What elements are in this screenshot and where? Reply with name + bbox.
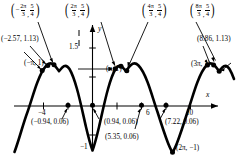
comma: , — [203, 12, 205, 19]
annotation-label-8.86: (8.86, 1.13) — [197, 36, 231, 43]
fraction-x-denominator: 3 — [21, 10, 25, 17]
arrow-neg2pi3 — [38, 22, 52, 61]
x-axis-label: x — [206, 91, 209, 99]
fraction-y: 5 4 — [30, 3, 34, 17]
point-2pi-min — [170, 150, 175, 155]
fraction-y: 5 4 — [205, 3, 209, 17]
annotation-label-neg-2.57: (−2.57, 1.13) — [1, 36, 39, 43]
fraction-y-denominator: 4 — [30, 10, 34, 17]
point-7.22 — [164, 103, 169, 108]
annotation-label-neg-0.94: (−0.94, 0.06) — [31, 119, 69, 126]
fraction-y-denominator: 4 — [205, 10, 209, 17]
paren-open: ( — [142, 3, 146, 17]
comma: , — [27, 12, 29, 19]
fraction-y: 5 4 — [157, 3, 161, 17]
point-8pi3 — [211, 62, 216, 67]
fraction-x: 2π 3 — [20, 3, 27, 17]
annotation-label-8pi-over-3: ( 8π 3 , 5 4 ) — [189, 3, 216, 17]
fraction-x: 4π 3 — [147, 3, 154, 17]
x-tick-label-neg4: −4 — [38, 110, 46, 117]
y-tick-label-neg1: −1 — [80, 144, 88, 151]
point-4pi3 — [124, 68, 129, 73]
paren-close: ) — [163, 3, 167, 17]
annotation-label-7.22: (7.22, 0.06) — [165, 119, 199, 126]
axes-group — [14, 25, 218, 148]
point-3pi — [217, 69, 222, 74]
fraction-x: 2π 3 — [70, 3, 77, 17]
fraction-x-denominator: 3 — [72, 10, 76, 17]
annotation-label-5.35: (5.35, 0.06) — [105, 134, 139, 141]
comma: , — [78, 12, 80, 19]
paren-close: ) — [86, 3, 90, 17]
point-neg-0.94 — [66, 103, 71, 108]
point-neg-2pi3 — [52, 62, 57, 67]
comma: , — [155, 12, 157, 19]
annotation-label-2pi-over-3: ( 2π 3 , 5 4 ) — [64, 3, 91, 17]
fraction-x-denominator: 3 — [149, 10, 153, 17]
arrow-2pi3 — [101, 22, 114, 64]
annotation-label-3pi: (3π, 1) — [191, 61, 210, 68]
fraction-y-denominator: 4 — [157, 10, 161, 17]
fraction-x-denominator: 3 — [197, 10, 201, 17]
point-0.94 — [90, 103, 95, 108]
fraction-x: 8π 3 — [195, 3, 202, 17]
y-axis-arrow — [90, 25, 96, 32]
annotation-label-neg-2pi-over-3: ( − 2π 3 , 5 4 ) — [10, 3, 40, 17]
paren-open: ( — [11, 3, 15, 17]
x-tick-label-6: 6 — [146, 110, 150, 117]
y-axis-label: y — [98, 25, 101, 33]
paren-close: ) — [36, 3, 40, 17]
annotation-label-4pi-over-3: ( 4π 3 , 5 4 ) — [141, 3, 168, 17]
annotation-label-0.94: (0.94, 0.06) — [104, 119, 138, 126]
point-5.35 — [139, 103, 144, 108]
paren-close: ) — [211, 3, 215, 17]
graph-figure: ( − 2π 3 , 5 4 ) ( 2π 3 , 5 4 ) ( 4π 3 — [0, 0, 243, 157]
fraction-y-denominator: 4 — [80, 10, 84, 17]
fraction-y: 5 4 — [80, 3, 84, 17]
x-tick-label-10: 10 — [186, 110, 193, 117]
annotation-label-neg-pi: (−π, 1) — [24, 60, 44, 67]
y-tick-label-1.5: 1.5 — [69, 44, 78, 51]
x-axis-arrow — [211, 103, 218, 109]
annotation-label-2pi: (2π, −1) — [176, 145, 199, 152]
paren-open: ( — [65, 3, 69, 17]
arrow-4pi3 — [129, 22, 148, 65]
paren-open: ( — [190, 3, 194, 17]
annotation-label-pi: (π, 1) — [106, 66, 122, 73]
point-neg-2.57 — [45, 63, 50, 68]
